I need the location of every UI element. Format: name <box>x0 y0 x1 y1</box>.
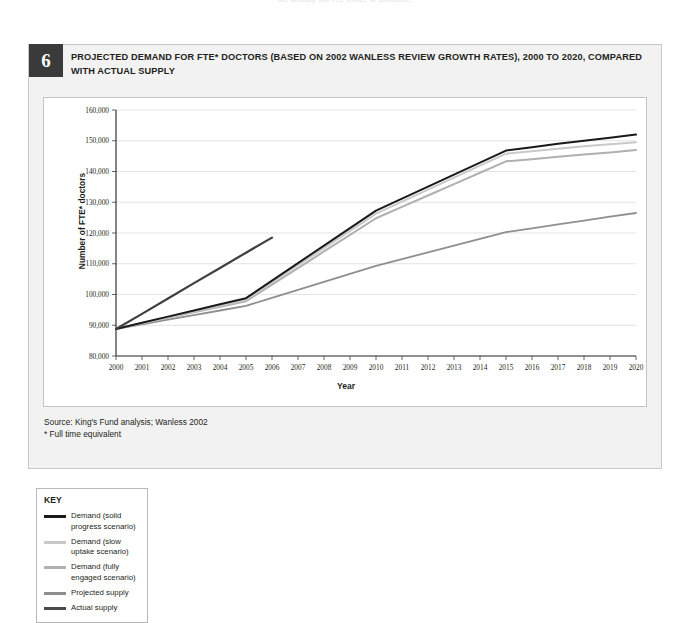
source-line: Source: King's Fund analysis; Wanless 20… <box>44 417 208 429</box>
legend-item-label: Demand (fully engaged scenario) <box>71 562 140 583</box>
x-axis-tick-label: 2010 <box>369 363 384 372</box>
chart-card: 80,00090,000100,000110,000120,000130,000… <box>43 97 647 407</box>
chart-series-line <box>116 135 636 329</box>
legend-swatch-icon <box>44 515 66 518</box>
legend-item-label: Projected supply <box>71 588 129 599</box>
chart-series-line <box>116 142 636 329</box>
x-axis-tick-label: 2012 <box>421 363 436 372</box>
chart-series-line <box>116 150 636 329</box>
legend-item-label: Demand (slow uptake scenario) <box>71 537 140 558</box>
legend-item: Demand (fully engaged scenario) <box>44 562 140 583</box>
x-axis-label: Year <box>44 381 648 391</box>
x-axis-tick-label: 2020 <box>629 363 644 372</box>
legend-item: Demand (slow uptake scenario) <box>44 537 140 558</box>
legend-item: Demand (solid progress scenario) <box>44 511 140 532</box>
y-axis-tick-label: 80,000 <box>89 352 109 361</box>
y-axis-tick-label: 90,000 <box>89 321 109 330</box>
x-axis-tick-label: 2016 <box>525 363 540 372</box>
x-axis-tick-label: 2006 <box>265 363 280 372</box>
legend-item: Projected supply <box>44 588 140 599</box>
x-axis-tick-label: 2014 <box>473 363 488 372</box>
x-axis-tick-label: 2009 <box>343 363 358 372</box>
x-axis-tick-label: 2004 <box>213 363 228 372</box>
figure-number-badge: 6 <box>29 44 63 77</box>
line-chart: 80,00090,000100,000110,000120,000130,000… <box>44 98 646 406</box>
y-axis-tick-label: 160,000 <box>85 106 109 115</box>
legend-item-label: Actual supply <box>71 603 117 614</box>
figure-panel: 6 PROJECTED DEMAND FOR FTE* DOCTORS (BAS… <box>28 44 662 469</box>
figure-title: PROJECTED DEMAND FOR FTE* DOCTORS (BASED… <box>71 51 646 78</box>
y-axis-tick-label: 110,000 <box>86 259 110 268</box>
legend-item-label: Demand (solid progress scenario) <box>71 511 140 532</box>
legend-swatch-icon <box>44 541 66 544</box>
chart-legend-box: KEY Demand (solid progress scenario)Dema… <box>36 488 148 623</box>
x-axis-tick-label: 2018 <box>577 363 592 372</box>
legend-item: Actual supply <box>44 603 140 614</box>
legend-swatch-icon <box>44 592 66 595</box>
y-axis-tick-label: 150,000 <box>85 136 109 145</box>
x-axis-tick-label: 2013 <box>447 363 462 372</box>
legend-swatch-icon <box>44 566 66 569</box>
y-axis-tick-label: 140,000 <box>85 167 109 176</box>
legend-rows: Demand (solid progress scenario)Demand (… <box>44 511 140 613</box>
page-top-cutoff-text: are actually still free choice of candid… <box>0 0 690 6</box>
x-axis-tick-label: 2019 <box>603 363 618 372</box>
y-axis-tick-label: 130,000 <box>85 198 109 207</box>
y-axis-tick-label: 120,000 <box>85 229 109 238</box>
legend-title: KEY <box>44 495 140 505</box>
x-axis-tick-label: 2007 <box>291 363 306 372</box>
y-axis-label: Number of FTE* doctors <box>77 173 87 269</box>
x-axis-tick-label: 2000 <box>109 363 124 372</box>
x-axis-tick-label: 2005 <box>239 363 254 372</box>
legend-swatch-icon <box>44 607 66 610</box>
x-axis-tick-label: 2003 <box>187 363 202 372</box>
footnote-line: * Full time equivalent <box>44 429 208 441</box>
x-axis-tick-label: 2001 <box>135 363 150 372</box>
x-axis-tick-label: 2011 <box>395 363 410 372</box>
source-note: Source: King's Fund analysis; Wanless 20… <box>44 417 208 440</box>
x-axis-tick-label: 2002 <box>161 363 176 372</box>
x-axis-tick-label: 2017 <box>551 363 566 372</box>
x-axis-tick-label: 2008 <box>317 363 332 372</box>
x-axis-tick-label: 2015 <box>499 363 514 372</box>
y-axis-tick-label: 100,000 <box>85 290 109 299</box>
